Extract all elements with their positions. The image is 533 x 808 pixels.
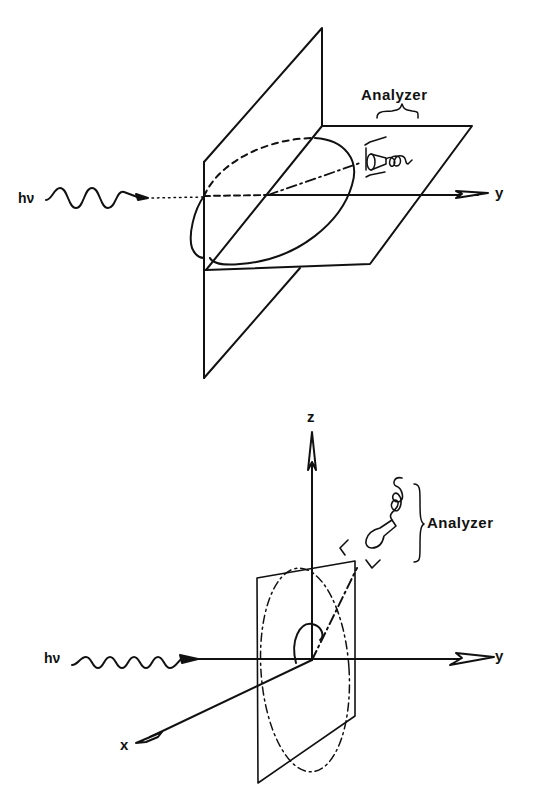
x-axis-label: x — [120, 736, 128, 753]
photon-wave — [46, 188, 204, 208]
y-axis — [192, 653, 494, 665]
emission-direction — [312, 568, 357, 660]
photon-wave — [72, 655, 312, 668]
top-panel — [46, 28, 488, 378]
x-axis — [136, 660, 312, 743]
analyzer-label-bottom: Analyzer — [427, 514, 494, 531]
analyzer-detector-icon — [340, 478, 402, 568]
y-axis — [204, 191, 488, 198]
bottom-panel — [72, 432, 494, 783]
analyzer-brace — [377, 104, 418, 118]
diagram-canvas — [0, 0, 533, 808]
emission-direction — [268, 163, 360, 195]
analyzer-detector-icon — [365, 137, 412, 177]
polarization-circle — [254, 565, 356, 775]
photon-label-top: hν — [18, 190, 34, 206]
z-axis-label: z — [307, 408, 315, 425]
horizontal-plane — [206, 126, 472, 270]
y-axis-label-bottom: y — [495, 647, 503, 664]
angle-arc — [294, 624, 322, 663]
analyzer-label-top: Analyzer — [361, 86, 428, 103]
y-axis-label-top: y — [495, 184, 503, 201]
analyzer-brace — [414, 484, 424, 562]
photon-label-bottom: hν — [44, 650, 60, 666]
polarization-ellipse — [191, 138, 354, 265]
vertical-plane — [204, 28, 322, 378]
